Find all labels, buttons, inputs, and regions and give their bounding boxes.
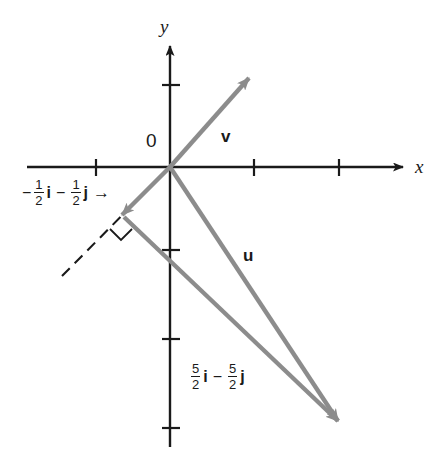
u-denominator-2: 2 [228,376,237,391]
right-arrow-icon: → [93,184,110,201]
u-fraction-1: 5 2 [191,362,200,391]
vector-projection-figure: y x 0 v u − 1 2 i − 1 2 j → 5 2 i − 5 2 [0,0,441,456]
u-numerator-2: 5 [228,362,237,376]
u-unit-j: j [240,369,244,385]
projection-unit-j: j [84,185,88,201]
projection-fraction-2: 1 2 [71,178,80,207]
projection-leading-sign: − [22,185,31,201]
projection-component-label: − 1 2 i − 1 2 j → [22,178,110,207]
projection-denominator-1: 2 [34,192,43,207]
origin-label: 0 [146,131,157,150]
vector-projection [122,165,172,215]
y-axis-label: y [160,17,168,36]
u-denominator-1: 2 [191,376,200,391]
u-fraction-2: 5 2 [228,362,237,391]
u-numerator-1: 5 [191,362,200,376]
y-axis [162,46,180,447]
vector-v [170,78,249,167]
projection-numerator-2: 1 [71,178,80,192]
vector-v-label: v [221,128,230,145]
u-component-label: 5 2 i − 5 2 j [190,362,245,391]
projection-numerator-1: 1 [34,178,43,192]
right-angle-marker [110,229,132,240]
u-unit-i: i [203,369,207,385]
vector-u-label: u [243,247,253,264]
projection-denominator-2: 2 [71,192,80,207]
projection-operator: − [56,185,65,201]
x-axis-label: x [415,157,423,176]
x-axis [27,159,403,176]
u-operator: − [213,369,222,385]
projection-fraction-1: 1 2 [34,178,43,207]
projection-unit-i: i [47,185,51,201]
